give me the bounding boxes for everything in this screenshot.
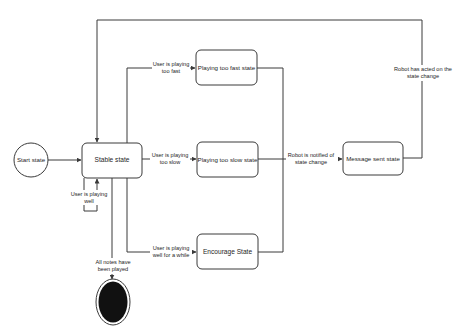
stable-state-node[interactable]: Stable state [82, 143, 142, 178]
edge-label-encourage: User is playing well for a while [150, 244, 192, 260]
edge-label-too-slow: User is playing too slow [150, 151, 190, 167]
too-slow-state-node[interactable]: Playing too slow state [197, 142, 258, 177]
edge-back-to-stable [97, 20, 422, 158]
svg-text:User is playing: User is playing [152, 152, 189, 158]
svg-text:User is playing: User is playing [153, 245, 190, 251]
edge-bus-to-message [257, 68, 283, 252]
svg-text:Robot has acted on the: Robot has acted on the [394, 66, 452, 72]
encourage-state-node[interactable]: Encourage State [197, 234, 258, 269]
svg-text:User is playing: User is playing [71, 191, 108, 197]
svg-text:well for a while: well for a while [152, 252, 190, 258]
stable-state-label: Stable state [95, 156, 130, 163]
svg-text:Robot is notified of: Robot is notified of [288, 152, 335, 158]
svg-text:well: well [83, 198, 94, 204]
svg-text:been played: been played [98, 266, 128, 272]
svg-text:too fast: too fast [162, 68, 181, 74]
too-fast-state-label: Playing too fast state [198, 64, 256, 71]
start-state-label: Start state [17, 156, 46, 163]
too-fast-state-node[interactable]: Playing too fast state [196, 50, 257, 85]
edge-to-too-fast [127, 68, 195, 143]
edge-to-encourage [127, 178, 196, 252]
state-diagram: Start state Stable state Playing too fas… [0, 0, 467, 333]
message-sent-state-node[interactable]: Message sent state [343, 142, 403, 175]
message-sent-state-label: Message sent state [346, 155, 400, 162]
edge-label-too-fast: User is playing too fast [152, 60, 190, 76]
encourage-state-label: Encourage State [203, 248, 252, 256]
start-state-node[interactable]: Start state [14, 143, 48, 177]
svg-text:too slow: too slow [160, 159, 181, 165]
svg-text:state change: state change [407, 73, 439, 79]
edge-label-self-loop: User is playing well [70, 190, 108, 205]
edge-label-robot-notified: Robot is notified of state change [286, 151, 338, 167]
edge-label-all-notes-played: All notes have been played [94, 258, 132, 274]
svg-text:User is playing: User is playing [153, 61, 190, 67]
svg-text:All notes have: All notes have [95, 259, 130, 265]
svg-text:state change: state change [295, 159, 327, 165]
edge-label-robot-acted: Robot has acted on the state change [393, 65, 453, 81]
end-state-node[interactable] [96, 279, 130, 325]
too-slow-state-label: Playing too slow state [198, 156, 258, 163]
